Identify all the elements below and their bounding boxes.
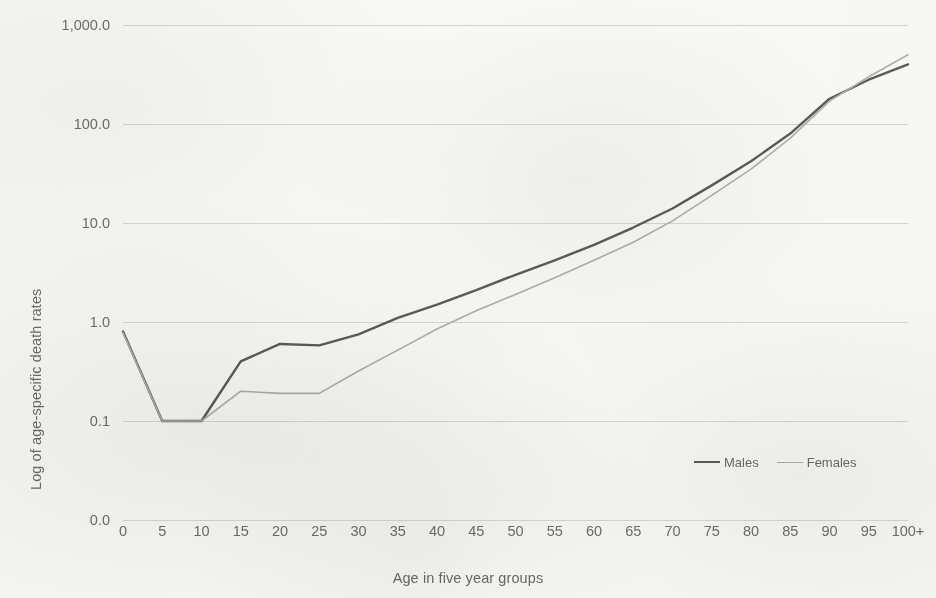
x-tick-label: 20 — [272, 523, 288, 539]
series-line-females — [123, 55, 908, 421]
x-axis-tick-labels: 0510152025303540455055606570758085909510… — [0, 523, 936, 549]
series-lines — [123, 55, 908, 421]
x-tick-label: 55 — [547, 523, 563, 539]
chart-legend: MalesFemales — [694, 452, 857, 472]
x-tick-label: 5 — [158, 523, 166, 539]
legend-line-swatch — [777, 462, 803, 463]
x-tick-label: 35 — [390, 523, 406, 539]
x-tick-label: 65 — [625, 523, 641, 539]
series-line-males — [123, 64, 908, 421]
x-tick-label: 60 — [586, 523, 602, 539]
x-tick-label: 70 — [664, 523, 680, 539]
gridlines — [123, 25, 908, 520]
x-tick-label: 45 — [468, 523, 484, 539]
x-tick-label: 10 — [193, 523, 209, 539]
legend-label: Females — [807, 455, 857, 470]
legend-item-females: Females — [777, 455, 857, 470]
legend-line-swatch — [694, 461, 720, 463]
x-tick-label: 95 — [861, 523, 877, 539]
x-tick-label: 85 — [782, 523, 798, 539]
x-tick-label: 15 — [233, 523, 249, 539]
death-rates-line-chart: Log of age-specific death rates 1,000.01… — [0, 0, 936, 598]
x-tick-label: 80 — [743, 523, 759, 539]
x-tick-label: 40 — [429, 523, 445, 539]
x-tick-label: 50 — [507, 523, 523, 539]
x-tick-label: 90 — [821, 523, 837, 539]
x-axis-title: Age in five year groups — [0, 570, 936, 586]
x-tick-label: 25 — [311, 523, 327, 539]
plot-area — [0, 0, 936, 598]
x-tick-label: 0 — [119, 523, 127, 539]
x-tick-label: 75 — [704, 523, 720, 539]
x-tick-label: 100+ — [892, 523, 925, 539]
legend-label: Males — [724, 455, 759, 470]
x-tick-label: 30 — [350, 523, 366, 539]
legend-item-males: Males — [694, 455, 759, 470]
